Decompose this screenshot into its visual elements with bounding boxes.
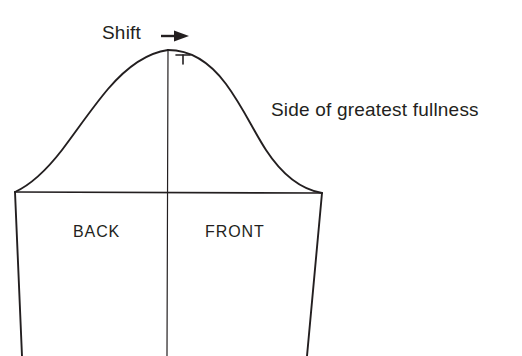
front-label: FRONT [205, 224, 265, 240]
front-sleeve-cap-curve [168, 50, 322, 193]
arrow-right-icon [161, 31, 189, 42]
back-side-seam [15, 192, 22, 356]
side-of-greatest-fullness-label: Side of greatest fullness [271, 100, 479, 119]
grainline [167, 50, 168, 356]
sleeve-outline-svg [0, 0, 522, 356]
back-sleeve-cap-curve [15, 50, 168, 192]
bicep-line [15, 192, 322, 193]
back-label: BACK [73, 224, 120, 240]
tick-mark-icon [176, 55, 190, 64]
front-side-seam [307, 193, 322, 356]
sleeve-pattern-diagram: Shift Side of greatest fullness BACK FRO… [0, 0, 522, 356]
shift-label: Shift [102, 23, 141, 42]
